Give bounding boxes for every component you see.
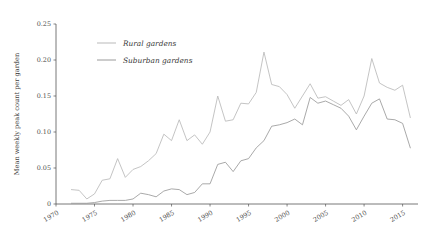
x-tick-label: 1970	[42, 209, 60, 224]
y-axis-title: Mean weekly peak count per garden	[13, 52, 21, 175]
y-axis-label: Mean weekly peak count per garden	[13, 52, 21, 175]
x-tick-label: 2000	[273, 209, 291, 224]
line-chart: 00.050.100.150.200.25 197019751980198519…	[0, 0, 428, 238]
chart-container: 00.050.100.150.200.25 197019751980198519…	[0, 0, 428, 238]
x-tick-label: 1990	[196, 209, 214, 224]
x-tick-label: 2005	[312, 209, 330, 224]
y-tick-label: 0.25	[37, 20, 51, 28]
y-tick-label: 0.20	[37, 56, 51, 64]
chart-legend: Rural gardensSuburban gardens	[97, 39, 193, 65]
y-tick-label: 0	[47, 200, 51, 208]
x-tick-label: 1985	[158, 209, 176, 224]
x-axis: 1970197519801985199019952000200520102015	[42, 204, 418, 224]
x-tick-label: 2010	[350, 209, 368, 224]
data-series-group	[71, 52, 410, 203]
legend-label-suburban-gardens: Suburban gardens	[123, 56, 193, 65]
y-tick-label: 0.05	[37, 164, 51, 172]
x-tick-label: 2015	[389, 209, 407, 224]
x-tick-label: 1980	[119, 209, 137, 224]
x-tick-label: 1995	[235, 209, 253, 224]
series-line-suburban-gardens	[71, 97, 410, 203]
y-tick-label: 0.15	[37, 92, 51, 100]
series-line-rural-gardens	[71, 52, 410, 199]
x-tick-label: 1975	[81, 209, 99, 224]
y-axis: 00.050.100.150.200.25	[37, 20, 56, 208]
legend-label-rural-gardens: Rural gardens	[122, 39, 177, 48]
y-tick-label: 0.10	[37, 128, 51, 136]
